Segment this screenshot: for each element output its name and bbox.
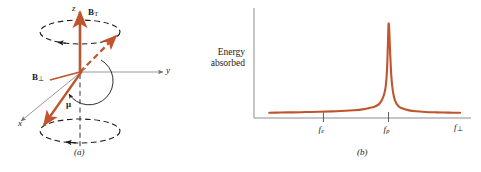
x-axis-label-subscript: ⊥ xyxy=(457,125,463,132)
y-axis-label: y xyxy=(166,65,170,75)
b-perpendicular-vector-label: B⊥ xyxy=(32,72,44,83)
magnetic-moment-label: μ xyxy=(66,99,71,109)
panel-b-caption: (b) xyxy=(357,147,368,157)
b-perp-subscript: ⊥ xyxy=(38,75,44,82)
chart-y-axis-label-line1: Energy xyxy=(183,47,245,58)
lower-precession-circle xyxy=(40,119,120,143)
panel-a-drawing xyxy=(0,0,235,172)
figure-root: z y x BT B⊥ μ (a) Energy absorbed xyxy=(0,0,481,172)
tick-label-fe: fe xyxy=(318,124,324,135)
tick-label-fp-subscript: p xyxy=(386,127,390,134)
energy-absorbed-curve xyxy=(269,23,460,113)
precession-angle-arc xyxy=(69,60,113,105)
b-total-subscript: T xyxy=(94,10,98,17)
tick-label-fe-subscript: e xyxy=(321,127,324,134)
upper-precession-direction-arrow xyxy=(58,42,66,43)
z-axis-label: z xyxy=(72,3,76,13)
b-total-vector-label: BT xyxy=(88,7,98,18)
x-axis-label-f-perp: f⊥ xyxy=(454,122,463,133)
x-axis-label: x xyxy=(18,118,22,128)
precessing-moment-dashed-vector xyxy=(80,36,116,72)
chart-y-axis-label: Energy absorbed xyxy=(183,47,245,70)
panel-b-absorption-chart: Energy absorbed fe fp f⊥ (b) xyxy=(235,0,481,172)
chart-y-axis-label-line2: absorbed xyxy=(183,58,245,69)
panel-a-caption: (a) xyxy=(74,147,85,157)
tick-label-fp: fp xyxy=(384,124,390,135)
panel-a-precession-diagram: z y x BT B⊥ μ (a) xyxy=(0,0,235,172)
